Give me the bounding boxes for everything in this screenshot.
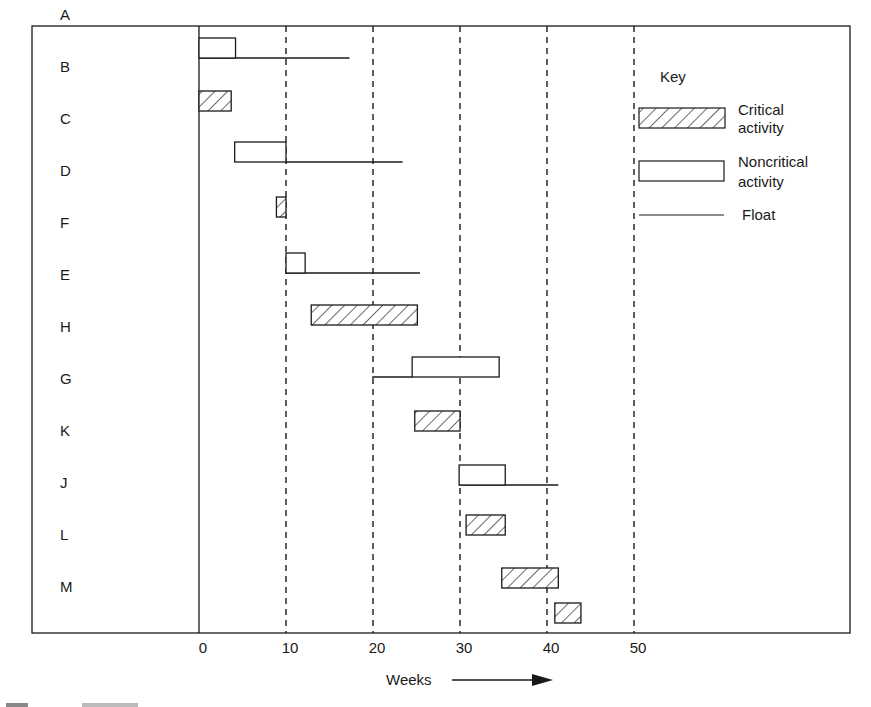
critical-activity-bar [199, 91, 231, 111]
activity-label: E [60, 266, 70, 283]
legend-critical-swatch [639, 108, 725, 128]
legend-float-label: Float [742, 206, 776, 223]
caption-fragment [6, 703, 28, 707]
activity-bars [199, 38, 581, 623]
x-tick-label: 30 [456, 639, 473, 656]
x-axis-ticks: 01020304050 [199, 639, 647, 656]
noncritical-activity-bar [199, 38, 236, 58]
x-tick-label: 0 [199, 639, 207, 656]
activity-row [311, 305, 417, 325]
legend-noncritical-label-2: activity [738, 173, 784, 190]
noncritical-activity-bar [412, 357, 499, 377]
x-tick-label: 40 [543, 639, 560, 656]
critical-activity-bar [311, 305, 417, 325]
legend-critical-label-2: activity [738, 119, 784, 136]
activity-label: J [60, 474, 68, 491]
activity-row [555, 603, 581, 623]
x-tick-label: 50 [630, 639, 647, 656]
activity-label: G [60, 370, 72, 387]
noncritical-activity-bar [235, 142, 286, 162]
activity-row [459, 465, 558, 485]
legend-noncritical-label-1: Noncritical [738, 153, 808, 170]
critical-activity-bar [555, 603, 581, 623]
x-tick-label: 10 [282, 639, 299, 656]
critical-activity-bar [502, 568, 559, 588]
activity-row [502, 568, 559, 588]
gantt-chart: ABCDFEHGKJLM 01020304050 Weeks Key Criti… [0, 0, 871, 707]
activity-row [466, 515, 505, 535]
activity-label: L [60, 526, 68, 543]
gridlines [286, 26, 634, 633]
activity-labels: ABCDFEHGKJLM [60, 6, 73, 595]
activity-row [276, 197, 286, 217]
noncritical-activity-bar [286, 253, 305, 273]
activity-row [372, 357, 499, 377]
activity-row [199, 38, 350, 58]
arrow-right-icon [452, 674, 553, 686]
activity-label: F [60, 214, 69, 231]
legend-critical-label-1: Critical [738, 101, 784, 118]
chart-frame [32, 26, 850, 633]
activity-label: A [60, 6, 70, 23]
activity-label: M [60, 578, 73, 595]
activity-label: H [60, 318, 71, 335]
x-tick-label: 20 [369, 639, 386, 656]
critical-activity-bar [415, 411, 460, 431]
activity-row [235, 142, 403, 162]
critical-activity-bar [466, 515, 505, 535]
legend-noncritical-swatch [639, 161, 724, 181]
activity-label: K [60, 422, 70, 439]
caption-fragment [82, 703, 138, 707]
activity-row [286, 253, 420, 273]
activity-row [415, 411, 460, 431]
critical-activity-bar [276, 197, 286, 217]
legend-title: Key [660, 68, 686, 85]
activity-label: B [60, 58, 70, 75]
legend: Key Critical activity Noncritical activi… [639, 68, 808, 223]
activity-label: C [60, 110, 71, 127]
noncritical-activity-bar [459, 465, 505, 485]
activity-label: D [60, 162, 71, 179]
x-axis-label: Weeks [386, 671, 432, 688]
activity-row [199, 91, 231, 111]
